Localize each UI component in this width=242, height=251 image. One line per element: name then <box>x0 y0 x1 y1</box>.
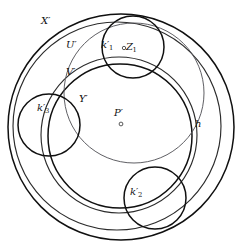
label-x-prime: X′ <box>41 16 50 26</box>
label-k1-prime: k′1 <box>101 40 114 50</box>
diagram-figure: X′ U′ V′ Y′ P′ k′1 Z1 k′2 k′3 h <box>0 0 242 251</box>
label-p-prime: P′ <box>114 108 123 118</box>
circle-v-prime <box>41 57 197 213</box>
label-k3-prime: k′3 <box>37 103 50 113</box>
label-u-prime: U′ <box>66 40 77 50</box>
point-marker-p-prime <box>119 122 123 126</box>
label-v-prime-mark: ′ <box>73 66 75 77</box>
label-y-prime: Y′ <box>79 94 88 104</box>
label-y-prime-text: Y <box>79 93 86 104</box>
circle-u-prime <box>13 22 221 230</box>
label-k2-prime-sub: 2 <box>138 191 142 199</box>
label-h-text: h <box>195 118 201 129</box>
circle-k2-prime <box>124 167 186 229</box>
label-z1-text: Z <box>126 41 133 52</box>
label-p-prime-mark: ′ <box>121 107 123 118</box>
label-k1-prime-sub: 1 <box>109 44 113 52</box>
label-p-prime-text: P <box>114 107 121 118</box>
label-z1-sub: 1 <box>133 46 137 54</box>
label-y-prime-mark: ′ <box>86 93 88 104</box>
circle-y-prime <box>48 64 192 208</box>
label-z1: Z1 <box>126 42 137 52</box>
label-k3-prime-sub: 3 <box>45 107 49 115</box>
label-k2-prime: k′2 <box>130 187 143 197</box>
circles-diagram-svg <box>0 0 242 251</box>
label-h: h <box>195 119 201 129</box>
label-v-prime: V′ <box>66 67 76 77</box>
label-x-prime-mark: ′ <box>48 15 50 26</box>
label-u-prime-mark: ′ <box>74 39 76 50</box>
